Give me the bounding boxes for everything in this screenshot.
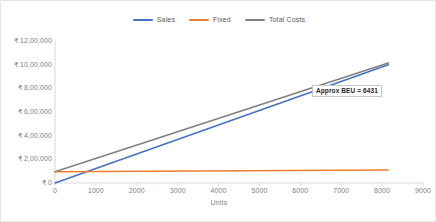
y-axis-tick-label: ₹ 10,00,000 — [14, 61, 52, 69]
plot-area — [55, 41, 423, 183]
chart-container: Sales Fixed Total Costs ₹ 0₹ 2,00,000₹ 4… — [0, 0, 436, 222]
series-line-total-costs — [55, 63, 388, 172]
y-axis-tick-label: ₹ 12,00,000 — [14, 37, 52, 45]
x-axis-tick-label: 3000 — [170, 187, 186, 194]
y-axis-tick-label: ₹ 6,00,000 — [18, 108, 52, 116]
legend-item-fixed[interactable]: Fixed — [189, 16, 231, 23]
x-axis-tick-label: 5000 — [251, 187, 267, 194]
legend-item-total-costs[interactable]: Total Costs — [245, 16, 305, 23]
y-axis-tick-label: ₹ 0 — [42, 179, 52, 187]
x-axis-tick-label: 8000 — [374, 187, 390, 194]
series-line-fixed — [55, 170, 388, 172]
y-axis-tick-label: ₹ 2,00,000 — [18, 155, 52, 163]
x-axis-tick-label: 6000 — [292, 187, 308, 194]
y-axis-tick-label: ₹ 8,00,000 — [18, 84, 52, 92]
legend-label-total-costs: Total Costs — [269, 16, 305, 23]
legend-item-sales[interactable]: Sales — [133, 16, 175, 23]
chart-legend: Sales Fixed Total Costs — [1, 16, 436, 23]
x-axis-tick-label: 4000 — [211, 187, 227, 194]
plot-svg — [55, 41, 423, 183]
x-axis-tick-label: 9000 — [415, 187, 431, 194]
x-axis-tick-label: 2000 — [129, 187, 145, 194]
x-axis-tick-label: 0 — [53, 187, 57, 194]
legend-swatch-fixed — [189, 19, 209, 21]
x-axis-labels: 0100020003000400050006000700080009000 — [55, 187, 423, 199]
x-axis-tick-label: 7000 — [333, 187, 349, 194]
y-axis-labels: ₹ 0₹ 2,00,000₹ 4,00,000₹ 6,00,000₹ 8,00,… — [1, 41, 52, 183]
legend-swatch-sales — [133, 19, 153, 21]
legend-swatch-total-costs — [245, 19, 265, 21]
legend-label-fixed: Fixed — [213, 16, 231, 23]
y-axis-tick-label: ₹ 4,00,000 — [18, 132, 52, 140]
legend-label-sales: Sales — [157, 16, 175, 23]
x-axis-title: Units — [1, 199, 436, 206]
breakeven-annotation-label: Approx BEU = 6431 — [312, 85, 382, 97]
series-line-sales — [55, 65, 388, 183]
x-axis-tick-label: 1000 — [88, 187, 104, 194]
